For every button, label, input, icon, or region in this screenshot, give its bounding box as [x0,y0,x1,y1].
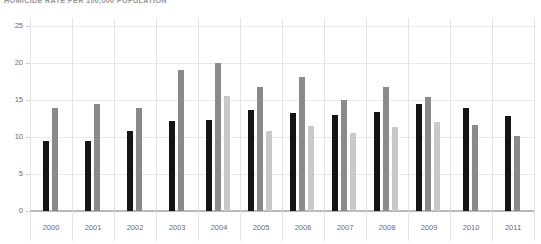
x-axis-tick-label: 2006 [295,224,312,232]
x-axis-tick-label: 2008 [379,224,396,232]
bar-groups [30,26,534,211]
bar [43,141,49,211]
bar [434,122,440,211]
bar-group [114,26,156,211]
bar [248,110,254,211]
x-axis-tick-label: 2002 [127,224,144,232]
bar [127,131,133,211]
bar [383,87,389,211]
bar [299,77,305,211]
bar-group [282,26,324,211]
x-axis-tick-label: 2001 [85,224,102,232]
x-axis-tick-label: 2009 [421,224,438,232]
bar [94,104,100,211]
bar [290,113,296,211]
bar [52,108,58,211]
bar [392,127,398,211]
bar [332,115,338,211]
y-axis-tick-mark [26,211,30,212]
bar-group [198,26,240,211]
x-axis-tick-label: 2011 [505,224,521,232]
x-axis-tick-label: 2007 [337,224,354,232]
chart-title: HOMICIDE RATE PER 100,000 POPULATION [4,0,167,5]
bar [169,121,175,211]
bar [206,120,212,211]
bar-group [324,26,366,211]
bar-group [408,26,450,211]
bar [215,63,221,211]
y-axis-tick-label: 10 [15,133,23,141]
bar [425,97,431,211]
y-axis-tick-label: 0 [19,207,23,215]
bar-group [366,26,408,211]
bar-group [450,26,492,211]
bar [416,104,422,211]
y-axis-tick-label: 5 [19,170,23,178]
x-axis-tick-label: 2005 [253,224,270,232]
x-axis-tick-label: 2000 [43,224,60,232]
x-axis-tick-label: 2010 [463,224,480,232]
x-axis-tick-label: 2003 [169,224,186,232]
bar-group [72,26,114,211]
y-axis-tick-label: 20 [15,59,23,67]
bar-group [240,26,282,211]
bar-group [30,26,72,211]
bar [257,87,263,211]
bar [472,125,478,211]
bar-group [156,26,198,211]
bar [463,108,469,211]
bar [341,100,347,211]
bar [374,112,380,211]
category-separator [534,18,535,241]
plot-area: 0510152025 20002001200220032004200520062… [30,26,534,211]
bar [85,141,91,211]
bar [308,126,314,211]
bar [505,116,511,211]
bar [266,131,272,211]
x-axis-tick-label: 2004 [211,224,228,232]
y-axis-tick-label: 15 [15,96,23,104]
bar-chart: HOMICIDE RATE PER 100,000 POPULATION 051… [0,0,541,244]
bar [224,96,230,211]
bar-group [492,26,534,211]
y-axis-tick-label: 25 [15,22,23,30]
bar [350,133,356,211]
bar [514,136,520,211]
bar [136,108,142,211]
bar [178,70,184,211]
